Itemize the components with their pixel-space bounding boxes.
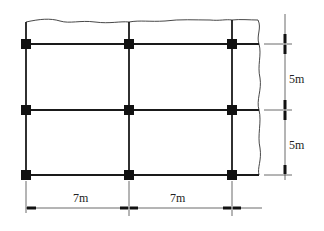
column-node [227,105,237,115]
column-node [124,170,134,180]
column-node [227,170,237,180]
dimension-label-y1: 5m [289,72,305,86]
dimension-label-x1: 7m [73,191,89,205]
top-break-line [26,19,258,23]
vertical-dimension [264,14,292,180]
horizontal-dimension [26,181,262,216]
structural-grid-diagram: 5m 5m 7m 7m [0,0,324,231]
column-node [227,39,237,49]
column-node [21,39,31,49]
column-node [21,105,31,115]
column-node [124,105,134,115]
dimension-label-x2: 7m [170,191,186,205]
column-node [124,39,134,49]
column-node [21,170,31,180]
dimension-label-y2: 5m [289,138,305,152]
